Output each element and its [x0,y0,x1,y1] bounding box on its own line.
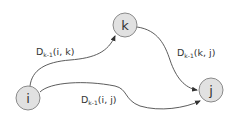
edge-label-i-j: Dk-1(i, j) [81,94,117,106]
node-k-label: k [121,18,129,33]
edge-i-to-k [30,36,115,86]
edge-label-i-j-main: D [81,94,88,105]
node-i: i [16,86,40,110]
diagram-canvas: k i j Dk-1(i, k) Dk-1(k, j) Dk-1(i, j) [0,0,245,121]
node-i-label: i [26,91,30,106]
edge-label-k-j-sub: k-1 [184,52,194,59]
edge-label-i-k-args: (i, k) [53,46,75,57]
edge-label-i-k-sub: k-1 [43,51,53,58]
node-j-label: j [208,83,213,98]
edge-label-k-j-args: (k, j) [194,47,216,58]
edge-label-i-k: Dk-1(i, k) [36,46,74,58]
edge-label-i-j-args: (i, j) [98,94,117,105]
edge-label-i-k-main: D [36,46,43,57]
edge-i-to-j [40,83,200,109]
node-k: k [113,13,137,37]
edge-label-k-j-main: D [177,47,184,58]
edge-label-i-j-sub: k-1 [88,99,98,106]
node-j: j [199,78,223,102]
path-diagram: k i j Dk-1(i, k) Dk-1(k, j) Dk-1(i, j) [0,0,245,121]
edge-label-k-j: Dk-1(k, j) [177,47,215,59]
